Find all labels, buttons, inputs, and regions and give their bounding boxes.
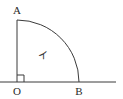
region-label: イ <box>38 50 48 61</box>
sector-diagram: A O B イ <box>0 0 123 99</box>
arc-ab <box>17 20 79 82</box>
point-label-o: O <box>13 85 21 97</box>
point-label-b: B <box>75 85 82 97</box>
point-label-a: A <box>13 4 21 16</box>
right-angle-mark <box>17 75 24 82</box>
